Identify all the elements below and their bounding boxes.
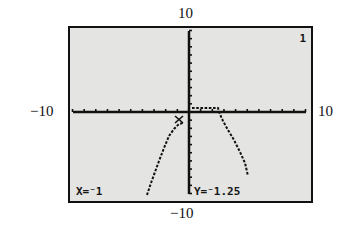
y-min-label: −10 [170,206,193,221]
trace-x-readout: X=⁻1 [76,186,103,197]
y-max-label: 10 [178,6,193,21]
plot-number-indicator: 1 [299,33,306,44]
trace-y-readout: Y=⁻1.25 [194,186,240,197]
right-branch-curve [192,108,248,176]
calculator-graph-screen[interactable]: 1 X=⁻1 Y=⁻1.25 [68,26,313,203]
x-min-label: −10 [30,104,53,119]
x-max-label: 10 [318,104,333,119]
left-branch-curve [147,123,183,195]
graph-plot [70,28,311,201]
trace-cursor-icon [175,116,183,123]
graph-curves [147,108,248,195]
